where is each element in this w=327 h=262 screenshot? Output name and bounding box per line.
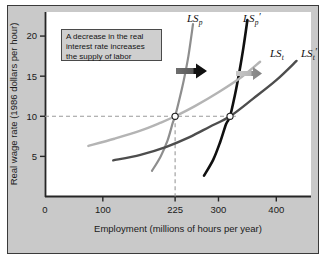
x-tick-label: 0 [42, 204, 47, 215]
y-tick-label: 5 [32, 151, 37, 162]
annotation-callout: A decrease in the real interest rate inc… [61, 29, 162, 61]
y-axis-ticks: 5101520 [26, 30, 45, 161]
annotation-line-3: the supply of labor [66, 52, 158, 62]
figure-container: 5101520 0100225300400 LSpLSp′LStLSt′ Emp… [0, 0, 327, 262]
x-axis-ticks: 0100225300400 [42, 197, 284, 215]
x-tick-label: 300 [211, 204, 227, 215]
x-tick-label: 100 [95, 204, 111, 215]
x-tick-label: 225 [167, 204, 183, 215]
equilibrium-point-new [227, 113, 233, 119]
annotation-line-2: interest rate increases [66, 42, 158, 52]
x-tick-label: 400 [268, 204, 284, 215]
y-tick-label: 20 [26, 30, 37, 41]
annotation-line-1: A decrease in the real [66, 32, 158, 42]
chart-svg: 5101520 0100225300400 LSpLSp′LStLSt′ Emp… [0, 0, 327, 262]
x-axis-title: Employment (millions of hours per year) [94, 223, 262, 234]
y-tick-label: 15 [26, 71, 37, 82]
equilibrium-point-initial [172, 113, 178, 119]
y-axis-title: Real wage rate (1986 dollars per hour) [8, 23, 19, 186]
y-tick-label: 10 [26, 111, 37, 122]
